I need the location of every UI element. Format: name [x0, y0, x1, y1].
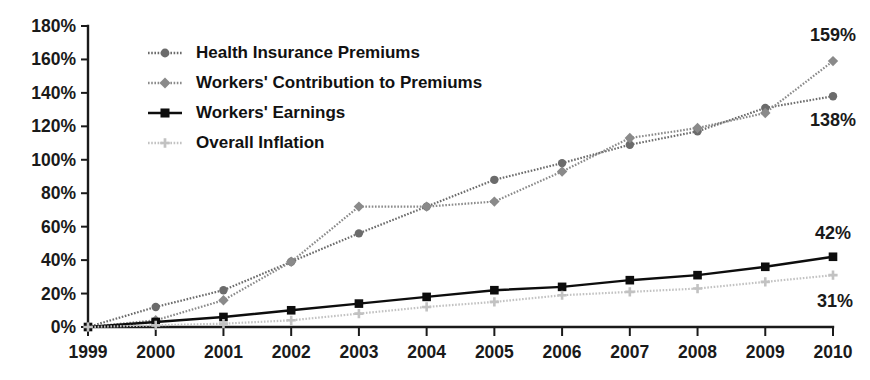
y-axis-tick-label: 120% [31, 116, 76, 136]
data-point-marker [490, 176, 498, 184]
data-point-marker [287, 306, 296, 315]
data-point-marker [829, 252, 838, 261]
endpoint-label: 138% [810, 110, 856, 130]
x-axis-tick-label: 2001 [204, 342, 243, 362]
data-point-marker [558, 283, 567, 292]
data-point-marker [160, 108, 169, 117]
data-point-marker [829, 92, 837, 100]
endpoint-label: 159% [810, 25, 856, 45]
x-axis-tick-label: 2008 [678, 342, 717, 362]
data-point-marker [152, 303, 160, 311]
data-point-marker [355, 229, 363, 237]
x-axis-tick-label: 2005 [475, 342, 514, 362]
y-axis-tick-label: 140% [31, 83, 76, 103]
y-axis-tick-label: 20% [41, 284, 76, 304]
data-point-marker [161, 49, 170, 58]
legend-label: Health Insurance Premiums [196, 43, 420, 62]
x-axis-tick-label: 2007 [610, 342, 649, 362]
y-axis-tick-label: 0% [51, 317, 77, 337]
x-axis-tick-label: 2002 [272, 342, 311, 362]
endpoint-label: 31% [817, 291, 853, 311]
x-axis-tick-label: 2009 [746, 342, 785, 362]
data-point-marker [558, 159, 566, 167]
data-point-marker [355, 299, 364, 308]
legend-label: Workers' Earnings [196, 103, 345, 122]
data-point-marker [626, 276, 635, 285]
data-point-marker [490, 286, 499, 295]
y-axis-tick-label: 160% [31, 49, 76, 69]
y-axis-tick-label: 180% [31, 16, 76, 36]
data-point-marker [219, 286, 227, 294]
data-point-marker [693, 271, 702, 280]
y-axis-tick-label: 100% [31, 150, 76, 170]
data-point-marker [422, 293, 431, 302]
chart-container: 180%160%140%120%100%80%60%40%20%0% 19992… [0, 0, 870, 380]
y-axis-tick-label: 40% [41, 250, 76, 270]
x-axis-tick-label: 1999 [69, 342, 108, 362]
line-chart: 180%160%140%120%100%80%60%40%20%0% 19992… [0, 0, 870, 380]
legend-label: Workers' Contribution to Premiums [196, 73, 482, 92]
x-axis-tick-label: 2010 [814, 342, 853, 362]
x-axis-tick-label: 2003 [339, 342, 378, 362]
data-point-marker [761, 263, 770, 272]
x-axis-tick-label: 2004 [407, 342, 446, 362]
legend-entry[interactable]: Workers' Contribution to Premiums [148, 73, 482, 92]
legend-label: Overall Inflation [196, 133, 324, 152]
endpoint-label: 42% [815, 223, 851, 243]
x-axis-tick-label: 2006 [543, 342, 582, 362]
x-axis-tick-label: 2000 [136, 342, 175, 362]
y-axis-tick-label: 80% [41, 183, 76, 203]
y-axis-tick-label: 60% [41, 217, 76, 237]
